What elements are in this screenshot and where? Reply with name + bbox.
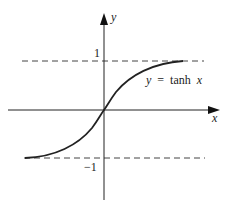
tick-label-neg1: −1	[84, 160, 97, 174]
curve-label: y = tanh x	[145, 73, 203, 87]
y-axis-arrow-icon	[100, 13, 108, 25]
tick-label-1: 1	[94, 46, 100, 60]
x-axis-label: x	[211, 111, 218, 125]
y-axis-label: y	[110, 10, 117, 24]
tanh-graph: y x 1 −1 y = tanh x	[0, 0, 225, 210]
